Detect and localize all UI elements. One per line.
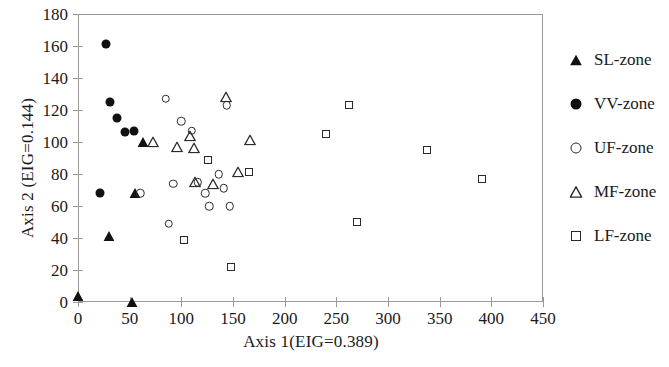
data-point-vv-zone — [129, 126, 138, 135]
legend-item-vv-zone[interactable]: VV-zone — [566, 82, 669, 126]
filled-circle-icon — [566, 94, 586, 114]
x-tick-inner — [336, 297, 337, 302]
data-point-lf-zone — [353, 218, 361, 226]
y-tick-inner — [78, 110, 83, 111]
data-point-lf-zone — [227, 263, 235, 271]
x-tick-inner — [181, 297, 182, 302]
y-tick-inner — [78, 270, 83, 271]
y-tick-label: 180 — [6, 6, 68, 23]
data-point-uf-zone — [201, 189, 210, 198]
open-square-icon — [566, 226, 586, 246]
data-point-mf-zone — [188, 143, 200, 154]
plot-frame — [78, 14, 543, 302]
data-point-sl-zone — [103, 231, 115, 242]
filled-triangle-icon — [566, 50, 586, 70]
data-point-mf-zone — [184, 130, 196, 141]
x-tick-inner — [285, 297, 286, 302]
data-point-vv-zone — [120, 128, 129, 137]
data-point-vv-zone — [106, 98, 115, 107]
data-point-uf-zone — [165, 219, 174, 228]
y-tick-inner — [78, 78, 83, 79]
data-point-lf-zone — [322, 130, 330, 138]
y-tick-label: 80 — [6, 166, 68, 183]
data-point-uf-zone — [169, 179, 178, 188]
data-point-lf-zone — [180, 236, 188, 244]
data-point-uf-zone — [214, 170, 223, 179]
legend-label: LF-zone — [594, 226, 652, 246]
data-point-mf-zone — [244, 135, 256, 146]
y-tick-inner — [78, 14, 83, 15]
data-point-mf-zone — [189, 177, 201, 188]
y-tick-inner — [78, 46, 83, 47]
scatter-plot-figure: Axis 2 (EIG=0.144) Axis 1(EIG=0.389) 020… — [0, 0, 669, 367]
legend: SL-zoneVV-zoneUF-zoneMF-zoneLF-zone — [566, 38, 669, 258]
plot-area — [78, 14, 543, 302]
y-tick-inner — [78, 142, 83, 143]
data-point-uf-zone — [219, 184, 228, 193]
data-point-uf-zone — [136, 189, 145, 198]
x-axis-title: Axis 1(EIG=0.389) — [78, 332, 544, 352]
data-point-uf-zone — [226, 202, 235, 211]
data-point-sl-zone — [72, 290, 84, 301]
x-tick — [233, 302, 234, 307]
data-point-uf-zone — [205, 202, 214, 211]
legend-label: SL-zone — [594, 50, 652, 70]
y-tick-label: 120 — [6, 102, 68, 119]
legend-label: MF-zone — [594, 182, 656, 202]
data-point-mf-zone — [147, 137, 159, 148]
x-tick-label: 450 — [513, 310, 573, 327]
data-point-mf-zone — [232, 167, 244, 178]
legend-item-uf-zone[interactable]: UF-zone — [566, 126, 669, 170]
legend-item-sl-zone[interactable]: SL-zone — [566, 38, 669, 82]
data-point-uf-zone — [177, 117, 186, 126]
legend-label: VV-zone — [594, 94, 655, 114]
data-point-uf-zone — [162, 95, 171, 104]
x-tick-inner — [388, 297, 389, 302]
x-tick — [336, 302, 337, 307]
x-tick — [181, 302, 182, 307]
y-tick-label: 40 — [6, 230, 68, 247]
y-tick-label: 100 — [6, 134, 68, 151]
x-tick — [440, 302, 441, 307]
x-tick-inner — [491, 297, 492, 302]
legend-item-lf-zone[interactable]: LF-zone — [566, 214, 669, 258]
data-point-lf-zone — [204, 156, 212, 164]
x-tick-inner — [543, 297, 544, 302]
data-point-sl-zone — [126, 297, 138, 308]
y-tick-label: 140 — [6, 70, 68, 87]
y-tick-label: 60 — [6, 198, 68, 215]
x-tick — [388, 302, 389, 307]
y-tick-label: 0 — [6, 294, 68, 311]
data-point-lf-zone — [478, 175, 486, 183]
x-tick — [491, 302, 492, 307]
data-point-mf-zone — [220, 92, 232, 103]
y-tick-label: 160 — [6, 38, 68, 55]
data-point-vv-zone — [113, 114, 122, 123]
data-point-lf-zone — [245, 168, 253, 176]
x-tick — [78, 302, 79, 307]
open-circle-icon — [566, 138, 586, 158]
y-tick-inner — [78, 238, 83, 239]
data-point-lf-zone — [423, 146, 431, 154]
x-tick-inner — [440, 297, 441, 302]
x-tick-inner — [233, 297, 234, 302]
x-tick — [543, 302, 544, 307]
y-tick-label: 20 — [6, 262, 68, 279]
x-tick — [285, 302, 286, 307]
data-point-mf-zone — [171, 141, 183, 152]
data-point-vv-zone — [95, 189, 104, 198]
legend-item-mf-zone[interactable]: MF-zone — [566, 170, 669, 214]
legend-label: UF-zone — [594, 138, 653, 158]
open-triangle-icon — [566, 182, 586, 202]
data-point-mf-zone — [207, 178, 219, 189]
data-point-lf-zone — [345, 101, 353, 109]
y-tick-inner — [78, 174, 83, 175]
y-tick-inner — [78, 206, 83, 207]
data-point-vv-zone — [101, 40, 110, 49]
